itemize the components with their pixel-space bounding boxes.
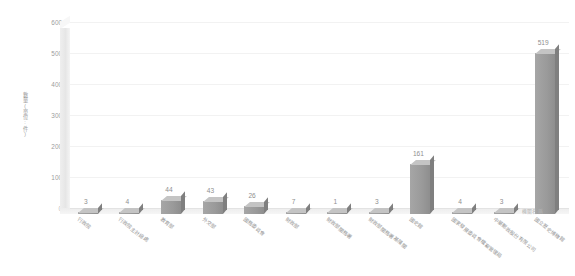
x-axis-category-label: 國務委員會 (242, 216, 266, 237)
y-axis-tick-label: 400 (28, 81, 62, 88)
x-axis-category-label: 財政部關務署 (326, 216, 354, 240)
y-axis-tick-label: 600 (28, 19, 62, 26)
bar-value-label: 3 (480, 198, 524, 205)
bar-value-label: 161 (396, 150, 440, 157)
bar-value-label: 4 (105, 198, 149, 205)
bar-slot: 3 (365, 28, 399, 214)
bar-slot: 161 (406, 28, 440, 214)
x-axis-category-label: 財政部 (284, 216, 300, 230)
bar-side-face (264, 197, 268, 214)
bar-slot: 3 (490, 28, 524, 214)
bar-chart: 數量(單位:件) 0100200300400500600 34444326713… (0, 0, 575, 276)
y-axis-tick-label: 100 (28, 174, 62, 181)
bar-value-label: 519 (521, 39, 565, 46)
bar-value-label: 1 (313, 198, 357, 205)
bar-slot: 44 (157, 28, 191, 214)
x-axis-category-label: 國史館 (409, 216, 425, 230)
bar-slot: 4 (448, 28, 482, 214)
bar-series: 3444432671316143519 (70, 22, 569, 214)
chart-wall-left (60, 28, 70, 214)
y-axis-ticks: 0100200300400500600 (0, 0, 62, 276)
x-axis-category-label: 外交部 (201, 216, 217, 230)
bar[interactable] (244, 206, 264, 214)
x-axis-category-label: 財政部關務署基隆關 (367, 216, 408, 250)
bar-slot: 7 (282, 28, 316, 214)
bar[interactable] (535, 53, 555, 214)
bar-slot: 1 (323, 28, 357, 214)
bar-value-label: 7 (272, 198, 316, 205)
x-axis-category-labels: 行政院行政院主計總處教育部外交部國務委員會財政部財政部關務署財政部關務署基隆關國… (70, 214, 575, 276)
x-axis-category-label: 國立歷史博物館 (534, 216, 566, 243)
x-axis-category-label: 行政院主計總處 (118, 216, 150, 243)
bar[interactable] (203, 201, 223, 214)
bar-slot: 3 (74, 28, 108, 214)
y-axis-tick-label: 200 (28, 143, 62, 150)
bar-slot: 26 (240, 28, 274, 214)
bar-side-face (430, 155, 434, 214)
y-axis-tick-label: 300 (28, 112, 62, 119)
bar-side-face (223, 192, 227, 214)
bar-value-label: 4 (438, 198, 482, 205)
bar-value-label: 44 (147, 186, 191, 193)
x-axis-title: 機關名稱 (522, 207, 543, 214)
bar-slot: 519 (531, 28, 565, 214)
bar-side-face (181, 192, 185, 214)
bar-value-label: 3 (355, 198, 399, 205)
y-axis-tick-label: 500 (28, 50, 62, 57)
bar-side-face (555, 44, 559, 214)
bar-value-label: 26 (230, 192, 274, 199)
bar-value-label: 3 (64, 198, 108, 205)
x-axis-category-label: 教育部 (159, 216, 175, 230)
y-axis-tick-label: 0 (28, 205, 62, 212)
bar-value-label: 43 (189, 187, 233, 194)
bar-slot: 4 (115, 28, 149, 214)
bar[interactable] (410, 164, 430, 214)
x-axis-category-label: 行政院 (76, 216, 92, 230)
x-axis-category-label: 中華郵政股份有限公司 (492, 216, 537, 253)
bar-slot: 43 (199, 28, 233, 214)
bar[interactable] (161, 200, 181, 214)
